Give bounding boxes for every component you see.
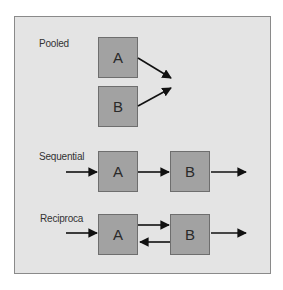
arrows-layer bbox=[0, 0, 283, 290]
pooled-arrow-a bbox=[138, 58, 171, 78]
pooled-arrow-b bbox=[138, 88, 171, 106]
